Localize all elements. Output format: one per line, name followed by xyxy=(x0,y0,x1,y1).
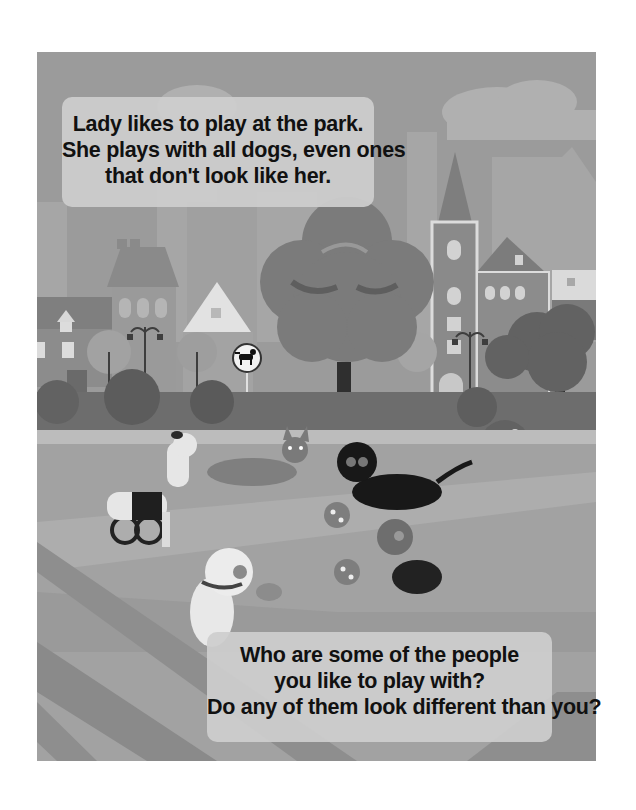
ball xyxy=(334,559,360,585)
bottom-caption: Who are some of the people you like to p… xyxy=(207,632,552,742)
caption-line: that don't look like her. xyxy=(62,163,374,189)
question-line: Who are some of the people xyxy=(207,642,552,668)
frisbee xyxy=(256,583,282,601)
ball xyxy=(324,502,350,528)
question-line: you like to play with? xyxy=(207,668,552,694)
top-caption: Lady likes to play at the park. She play… xyxy=(62,97,374,207)
caption-line: Lady likes to play at the park. xyxy=(62,111,374,137)
storybook-page: Lady likes to play at the park. She play… xyxy=(0,0,636,810)
caption-line: She plays with all dogs, even ones xyxy=(62,137,374,163)
footpath xyxy=(37,430,596,444)
question-line: Do any of them look different than you? xyxy=(207,694,552,720)
